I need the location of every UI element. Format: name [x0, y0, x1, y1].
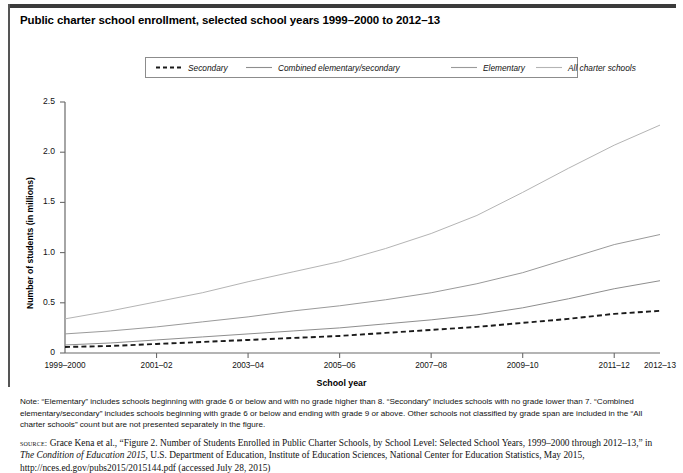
source-publication-title: The Condition of Education 2015 — [20, 450, 146, 460]
x-tick-label: 2012–13 — [644, 361, 676, 370]
y-tick-label: 0 — [21, 347, 55, 357]
line-chart-svg — [0, 88, 683, 388]
x-tick-label: 2001–02 — [141, 361, 173, 370]
legend-label: All charter schools — [568, 63, 636, 73]
series-line-all-charter-schools — [65, 125, 660, 319]
chart-legend: SecondaryCombined elementary/secondaryEl… — [145, 57, 578, 78]
x-axis-title: School year — [0, 378, 683, 388]
x-tick-label: 2011–12 — [599, 361, 630, 370]
source-text-part1: Grace Kena et al., “Figure 2. Number of … — [47, 438, 652, 448]
legend-swatch-icon — [246, 64, 272, 71]
x-tick-label: 2009–10 — [507, 361, 539, 370]
y-tick-label: 1.0 — [21, 247, 55, 257]
figure-container: Public charter school enrollment, select… — [0, 0, 683, 473]
legend-label: Elementary — [483, 63, 525, 73]
legend-label: Secondary — [188, 63, 228, 73]
source-tag: source: — [20, 438, 47, 448]
figure-note: Note: “Elementary” includes schools begi… — [20, 396, 668, 431]
legend-label: Combined elementary/secondary — [278, 63, 400, 73]
series-line-secondary — [65, 311, 660, 347]
figure-title: Public charter school enrollment, select… — [20, 14, 640, 26]
plot-area: Number of students (in millions) School … — [0, 88, 683, 388]
x-tick-label: 2005–06 — [324, 361, 356, 370]
legend-swatch-icon — [451, 64, 477, 71]
y-tick-label: 2.5 — [21, 96, 55, 106]
legend-item-elementary[interactable]: Elementary — [451, 63, 525, 73]
y-tick-label: 1.5 — [21, 196, 55, 206]
y-tick-label: 2.0 — [21, 146, 55, 156]
legend-item-secondary[interactable]: Secondary — [156, 63, 228, 73]
x-tick-label: 2003–04 — [232, 361, 264, 370]
y-tick-label: 0.5 — [21, 297, 55, 307]
series-line-elementary — [65, 235, 660, 334]
legend-swatch-icon — [536, 64, 562, 71]
figure-source: source: Grace Kena et al., “Figure 2. Nu… — [20, 437, 668, 473]
figure-top-rule — [8, 4, 676, 8]
x-tick-label: 1999–2000 — [45, 361, 86, 370]
legend-swatch-icon — [156, 64, 182, 71]
legend-item-all-charter-schools[interactable]: All charter schools — [536, 63, 636, 73]
legend-item-combined-elementary-secondary[interactable]: Combined elementary/secondary — [246, 63, 400, 73]
x-tick-label: 2007–08 — [415, 361, 447, 370]
